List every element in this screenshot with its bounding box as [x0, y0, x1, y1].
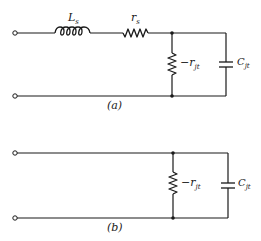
negative-resistor-label: −rjt: [180, 56, 199, 71]
circuit-b: [13, 151, 235, 220]
capacitor-label: Cjt: [237, 56, 250, 70]
negative-resistor-symbol: [168, 53, 176, 75]
junction-dot: [171, 216, 175, 220]
terminal-b-bottom: [13, 216, 17, 220]
capacitor-label: Cjt: [238, 177, 251, 191]
terminal-a-top: [13, 31, 17, 35]
junction-dot: [171, 151, 175, 155]
terminal-a-bottom: [13, 94, 17, 98]
series-resistor-label: rs: [131, 11, 140, 26]
junction-dot: [170, 31, 174, 35]
inductor-symbol: [55, 27, 90, 35]
negative-resistor-symbol: [169, 172, 177, 194]
series-resistor-symbol: [123, 29, 148, 37]
circuit-diagram: [0, 0, 261, 241]
inductor-label: Ls: [68, 11, 79, 26]
circuit-a: [13, 27, 233, 98]
junction-dot: [170, 94, 174, 98]
caption-b: (b): [107, 221, 123, 234]
caption-a: (a): [107, 99, 122, 112]
terminal-b-top: [13, 151, 17, 155]
negative-resistor-label: −rjt: [181, 176, 200, 191]
